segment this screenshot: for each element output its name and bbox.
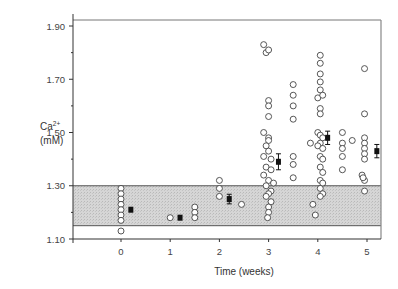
data-point-circle: [317, 193, 323, 199]
data-point-circle: [317, 79, 323, 85]
data-point-circle: [339, 153, 345, 159]
data-point-circle: [317, 111, 323, 117]
data-point-circle: [362, 188, 368, 194]
data-point-circle: [266, 47, 272, 53]
data-point-circle: [290, 153, 296, 159]
data-point-circle: [216, 185, 222, 191]
mean-square-marker: [325, 135, 330, 141]
data-point-circle: [290, 116, 296, 122]
y-tick-label: 1.70: [47, 74, 66, 85]
x-tick-label: 4: [315, 246, 320, 257]
mean-square-marker: [374, 148, 379, 154]
data-point-circle: [265, 215, 271, 221]
data-point-circle: [118, 228, 124, 234]
mean-square-marker: [128, 207, 133, 213]
x-tick-label: 5: [364, 246, 369, 257]
data-point-circle: [362, 66, 368, 72]
y-axis-title-main: Ca: [40, 121, 53, 132]
data-point-circle: [360, 175, 366, 181]
calcium-scatter-chart: 1.101.301.501.701.90 012345 Ca2+ (mM) Ti…: [0, 0, 398, 289]
y-axis-unit: (mM): [40, 135, 63, 146]
data-point-circle: [310, 201, 316, 207]
data-point-circle: [339, 167, 345, 173]
data-point-circle: [290, 175, 296, 181]
data-point-circle: [290, 161, 296, 167]
data-point-circle: [268, 167, 274, 173]
data-point-circle: [261, 42, 267, 48]
x-axis: 012345: [73, 239, 381, 257]
data-point-circle: [290, 103, 296, 109]
data-point-circle: [317, 52, 323, 58]
data-point-circle: [216, 177, 222, 183]
data-point-circle: [268, 156, 274, 162]
x-tick-label: 2: [217, 246, 222, 257]
data-point-circle: [317, 60, 323, 66]
data-point-circle: [266, 114, 272, 120]
data-point-circle: [320, 145, 326, 151]
mean-square-marker: [178, 215, 183, 221]
data-point-circle: [339, 145, 345, 151]
y-tick-label: 1.30: [47, 180, 66, 191]
data-point-circle: [362, 111, 368, 117]
data-point-circle: [317, 71, 323, 77]
data-point-circle: [307, 140, 313, 146]
data-point-circle: [261, 153, 267, 159]
data-point-circle: [320, 156, 326, 162]
x-tick-label: 1: [168, 246, 173, 257]
data-point-circle: [320, 169, 326, 175]
data-point-circle: [320, 92, 326, 98]
data-point-circle: [263, 193, 269, 199]
data-point-circle: [290, 82, 296, 88]
mean-square-marker: [276, 159, 281, 165]
data-point-circle: [339, 130, 345, 136]
x-tick-label: 0: [118, 246, 123, 257]
data-point-circle: [261, 172, 267, 178]
data-point-circle: [216, 193, 222, 199]
data-point-circle: [266, 103, 272, 109]
data-point-circle: [192, 215, 198, 221]
y-axis-title-superscript: 2+: [53, 120, 61, 127]
data-point-circle: [239, 201, 245, 207]
data-point-circle: [263, 183, 269, 189]
data-point-circle: [290, 92, 296, 98]
y-tick-label: 1.90: [47, 21, 66, 32]
data-point-circle: [312, 212, 318, 218]
mean-square-marker: [227, 196, 232, 202]
data-point-circle: [349, 137, 355, 143]
data-point-circle: [271, 180, 277, 186]
data-point-circle: [167, 215, 173, 221]
data-point-circle: [266, 148, 272, 154]
y-tick-label: 1.10: [47, 234, 66, 245]
data-point-circle: [118, 217, 124, 223]
data-point-circle: [261, 130, 267, 136]
x-tick-label: 3: [266, 246, 271, 257]
data-point-circle: [362, 156, 368, 162]
x-axis-title: Time (weeks): [214, 266, 274, 277]
